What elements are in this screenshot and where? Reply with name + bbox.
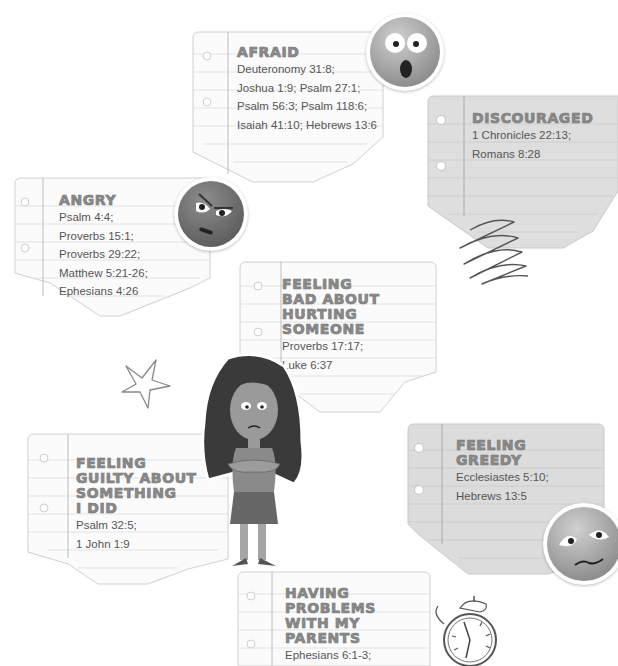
scripture-ref: Ephesians 6:1-3; [285,646,376,665]
scripture-ref: Ecclesiastes 5:10; [456,468,549,487]
scripture-refs: Ephesians 6:1-3; [285,646,376,665]
worried-face-icon [543,503,618,585]
scripture-ref: Romans 8:28 [472,145,593,164]
scripture-ref: Proverbs 29:22; [59,245,148,264]
scripture-ref: Psalm 56:3; Psalm 118:6; [237,97,377,116]
scribble-doodle [452,208,532,288]
card-afraid: AFRAID Deuteronomy 31:8; Joshua 1:9; Psa… [193,32,383,182]
star-doodle [118,356,174,412]
card-heading: FEELING BAD ABOUT HURTING SOMEONE [282,277,380,337]
alarm-clock-doodle [430,594,506,666]
card-heading: ANGRY [59,193,148,208]
card-heading: FEELING GUILTY ABOUT SOMETHING I DID [76,456,197,516]
scripture-refs: Deuteronomy 31:8; Joshua 1:9; Psalm 27:1… [237,60,377,134]
girl-arms-crossed-illustration [198,352,310,570]
scripture-ref: Ephesians 4:26 [59,282,148,301]
card-heading: DISCOURAGED [472,111,593,126]
scripture-refs: Psalm 4:4; Proverbs 15:1; Proverbs 29:22… [59,208,148,301]
scripture-ref: Deuteronomy 31:8; [237,60,377,79]
scripture-ref: Proverbs 15:1; [59,227,148,246]
scripture-ref: Isaiah 41:10; Hebrews 13:6 [237,116,377,135]
scripture-ref: Psalm 32:5; [76,516,197,535]
scripture-refs: Ecclesiastes 5:10; Hebrews 13:5 [456,468,549,505]
card-heading: HAVING PROBLEMS WITH MY PARENTS [285,586,376,646]
card-heading: AFRAID [237,45,377,60]
scripture-ref: 1 Chronicles 22:13; [472,126,593,145]
angry-face-icon [174,177,248,251]
scripture-ref: Hebrews 13:5 [456,487,549,506]
scripture-refs: 1 Chronicles 22:13; Romans 8:28 [472,126,593,163]
scripture-ref: Psalm 4:4; [59,208,148,227]
scripture-ref: Matthew 5:21-26; [59,264,148,283]
card-problems-with-parents: HAVING PROBLEMS WITH MY PARENTS Ephesian… [238,572,430,666]
scripture-ref: 1 John 1:9 [76,535,197,554]
shocked-face-icon [366,13,444,91]
scripture-refs: Psalm 32:5; 1 John 1:9 [76,516,197,553]
card-heading: FEELING GREEDY [456,438,549,468]
scripture-ref: Joshua 1:9; Psalm 27:1; [237,79,377,98]
